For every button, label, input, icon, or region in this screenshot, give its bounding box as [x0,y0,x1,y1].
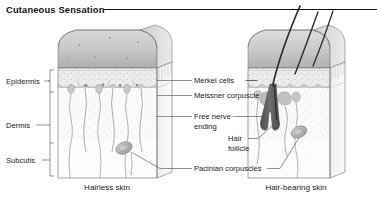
page-title: Cutaneous Sensation [6,5,105,15]
label-free-nerve-ending-line2: ending [194,122,217,131]
label-merkel-cells: Merkel cells [194,76,234,85]
cutaneous-sensation-figure: Cutaneous Sensation [0,0,377,197]
hairless-skin-block: Hairless skin [58,25,172,192]
label-free-nerve-ending-line1: Free nerve [194,112,231,121]
label-dermis: Dermis [6,121,30,130]
skin-surface-right [248,30,330,68]
label-pacinian-corpuscles: Pacinian corpuscles [194,164,262,173]
caption-hairless-skin: Hairless skin [84,183,130,192]
label-subcutis: Subcutis [6,156,35,165]
label-hair-follicle-line2: follicle [228,144,249,153]
caption-hair-bearing-skin: Hair-bearing skin [265,183,326,192]
label-hair-follicle-line1: Hair [228,134,242,143]
label-epidermis: Epidermis [6,77,40,86]
hair-bearing-skin-block: Hair-bearing skin [248,6,345,192]
header: Cutaneous Sensation [6,5,377,15]
skin-surface-left [58,30,157,68]
label-meissner-corpuscle: Meissner corpuscle [194,91,259,100]
layer-labels-group: Epidermis Dermis Subcutis [6,70,54,176]
